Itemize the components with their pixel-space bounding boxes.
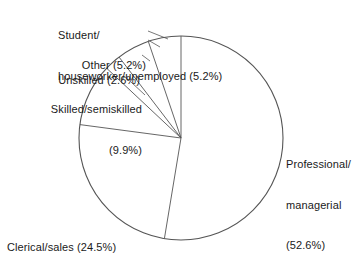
slice-label-skilled-line1: Skilled/semiskilled xyxy=(2,103,142,117)
slice-label-clerical-sales: Clerical/sales (24.5%) xyxy=(7,214,116,257)
slice-label-professional-line3: (52.6%) xyxy=(286,239,356,253)
slice-label-clerical-text: Clerical/sales (24.5%) xyxy=(7,241,116,255)
slice-label-skilled-line2: (9.9%) xyxy=(2,144,142,158)
slice-label-professional-line1: Professional/ xyxy=(286,158,356,172)
slice-label-professional-line2: managerial xyxy=(286,199,356,213)
slice-label-professional-managerial: Professional/ managerial (52.6%) xyxy=(286,131,356,257)
slice-label-skilled-semiskilled: Skilled/semiskilled (9.9%) xyxy=(2,76,142,184)
